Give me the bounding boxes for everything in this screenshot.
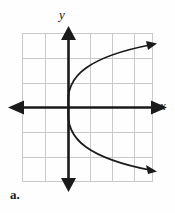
- x-axis-label: x: [160, 99, 166, 112]
- y-axis-arrow-down: [61, 178, 76, 192]
- coordinate-graph: [0, 0, 175, 213]
- x-axis-arrow-left: [8, 101, 24, 115]
- x-axis: [8, 101, 167, 115]
- parabola-upper-branch: [68, 45, 150, 108]
- parabola-upper-arrowhead: [146, 41, 157, 50]
- parabola-figure: y x a.: [0, 0, 175, 213]
- parabola-lower-arrowhead: [146, 165, 157, 174]
- y-axis-label: y: [59, 8, 65, 21]
- parabola-lower-branch: [68, 108, 150, 171]
- item-label: a.: [10, 188, 20, 201]
